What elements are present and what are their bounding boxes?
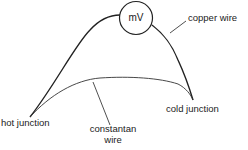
hot-junction-label: hot junction xyxy=(1,118,50,128)
copper-wire-left xyxy=(30,15,120,117)
copper-wire-leader xyxy=(170,21,186,33)
cold-junction-label: cold junction xyxy=(166,104,219,114)
constantan-wire-leader xyxy=(93,82,110,125)
constantan-wire-label-line1: constantan xyxy=(84,124,142,134)
meter-label: mV xyxy=(126,13,146,23)
constantan-wire-label-line2: wire xyxy=(84,135,142,145)
copper-wire-label: copper wire xyxy=(188,13,237,23)
thermocouple-diagram: mV copper wire cold junction hot junctio… xyxy=(0,0,248,150)
copper-wire-right xyxy=(152,25,193,100)
